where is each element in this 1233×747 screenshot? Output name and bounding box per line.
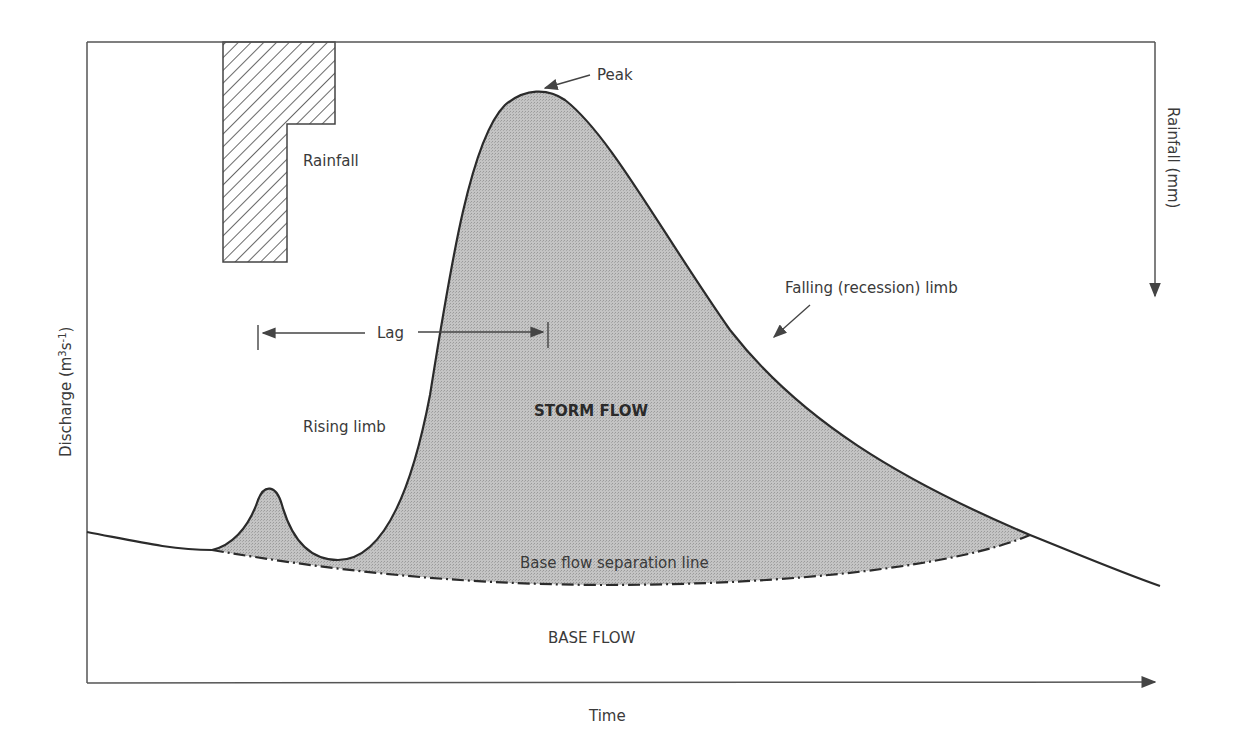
rainfall-axis-label: Rainfall (mm) <box>1164 107 1182 208</box>
base-flow-label: BASE FLOW <box>548 629 636 647</box>
storm-hydrograph-diagram: Peak Rainfall Lag Rising limb STORM FLOW… <box>0 0 1233 747</box>
lag-label: Lag <box>377 324 404 342</box>
rainfall-label: Rainfall <box>303 152 359 170</box>
peak-arrow <box>545 75 590 88</box>
falling-limb-arrow <box>774 305 810 337</box>
storm-flow-label: STORM FLOW <box>534 402 649 420</box>
falling-limb-label: Falling (recession) limb <box>785 279 958 297</box>
y-axis-label: Discharge (m3s-1) <box>57 327 75 457</box>
peak-label: Peak <box>597 66 633 84</box>
rising-limb-label: Rising limb <box>303 418 386 436</box>
x-axis-time <box>87 682 1155 683</box>
x-axis-label: Time <box>588 707 626 725</box>
base-flow-separation-label: Base flow separation line <box>520 554 709 572</box>
